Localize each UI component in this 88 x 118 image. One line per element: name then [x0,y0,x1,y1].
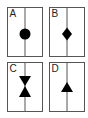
panel-c: C [8,63,43,112]
circle-icon [20,29,31,40]
panel-b: B [50,8,85,57]
panel-a-label: A [10,8,17,19]
panel-d-label: D [52,63,59,74]
hourglass-top-triangle-icon [19,76,31,86]
panel-b-label: B [52,8,59,19]
diamond-icon [62,28,72,41]
hourglass-bottom-triangle-icon [19,86,31,97]
panel-d: D [50,63,85,112]
panel-a: A [8,8,43,57]
triangle-up-icon [61,82,73,92]
figure: A B C D [0,0,88,118]
panel-c-label: C [10,63,17,74]
